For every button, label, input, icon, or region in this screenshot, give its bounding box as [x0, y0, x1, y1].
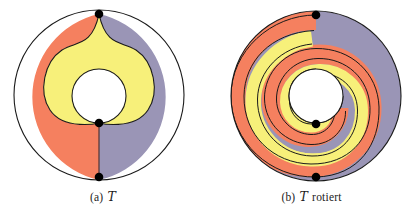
vertex-dot-top-b: [312, 11, 321, 20]
caption-b-symbol: T: [298, 189, 309, 204]
caption-a-symbol: T: [106, 189, 117, 204]
figure-panel-b: (b) T rotiert: [208, 0, 415, 222]
vertex-dot-top-a: [95, 10, 104, 19]
vertex-dot-middle-b: [312, 120, 321, 129]
caption-b-suffix: rotiert: [309, 191, 342, 203]
diagram-b: [208, 0, 415, 190]
diagram-a: [0, 0, 207, 190]
vertex-dot-bottom-b: [312, 173, 321, 182]
vertex-dot-middle-a: [95, 119, 104, 128]
caption-a: (a) T: [0, 190, 207, 204]
caption-b-prefix: (b): [281, 191, 298, 203]
figure-panel-a: (a) T: [0, 0, 207, 222]
caption-b: (b) T rotiert: [208, 190, 415, 204]
figure-root: (a) T: [0, 0, 415, 222]
vertex-dot-bottom-a: [95, 173, 104, 182]
caption-a-prefix: (a): [90, 191, 106, 203]
